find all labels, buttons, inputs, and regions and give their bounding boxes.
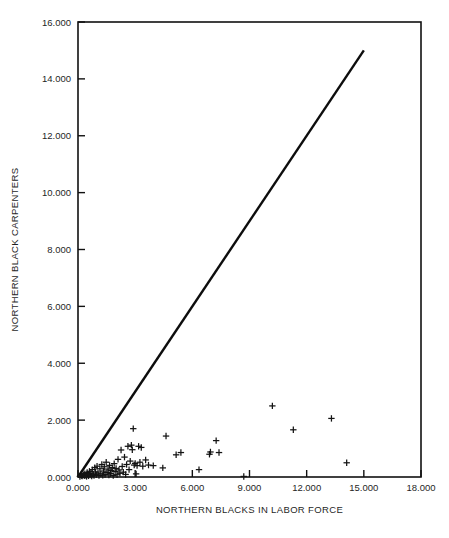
chart-canvas: 0.0003.0006.0009.00012.00015.00018.000 0…: [0, 0, 449, 538]
y-tick-label: 10.000: [42, 187, 71, 198]
x-tick-label: 18.000: [406, 482, 435, 493]
x-tick-label: 12.000: [292, 482, 321, 493]
y-tick-label: 12.000: [42, 130, 71, 141]
y-axis-title: NORTHERN BLACK CARPENTERS: [9, 168, 20, 332]
y-tick-label: 6.000: [47, 301, 71, 312]
x-axis-title: NORTHERN BLACKS IN LABOR FORCE: [156, 504, 343, 515]
y-tick-label: 4.000: [47, 358, 71, 369]
y-tick-label: 0.000: [47, 472, 71, 483]
x-tick-label: 0.000: [66, 482, 90, 493]
x-tick-label: 9.000: [238, 482, 262, 493]
y-tick-label: 16.000: [42, 17, 71, 28]
y-tick-label: 2.000: [47, 415, 71, 426]
x-tick-label: 15.000: [349, 482, 378, 493]
x-tick-label: 3.000: [123, 482, 147, 493]
scatter-plot-figure: 0.0003.0006.0009.00012.00015.00018.000 0…: [0, 0, 449, 538]
x-tick-label: 6.000: [180, 482, 204, 493]
y-tick-label: 8.000: [47, 244, 71, 255]
y-tick-label: 14.000: [42, 73, 71, 84]
